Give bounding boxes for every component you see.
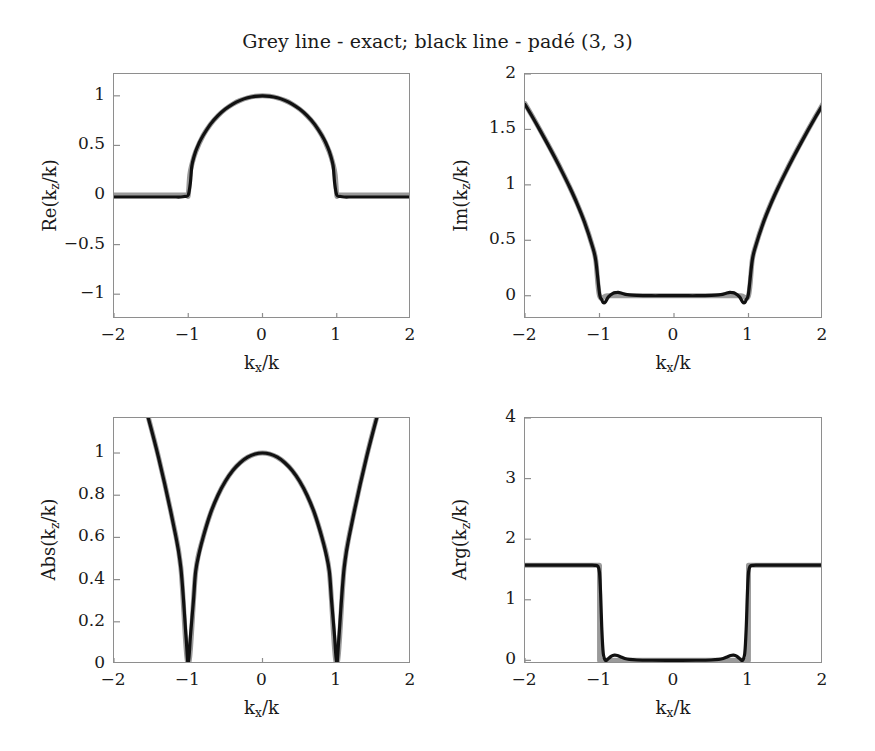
figure-canvas: Grey line - exact; black line - padé (3,… [0,0,875,751]
arg-panel-xtick-label: 1 [723,669,773,689]
arg-panel-xtick-label: −2 [499,669,549,689]
arg-panel-plot-area [525,418,822,663]
arg-panel-series-exact [525,565,822,660]
arg-panel-x-axis-label: kx/k [524,697,822,720]
arg-panel-tickmarks [525,418,822,663]
arg-panel-xtick-label: −1 [574,669,624,689]
arg-panel-xtick-label: 0 [648,669,698,689]
arg-panel-axes [524,417,822,663]
arg-panel-y-axis-label: Arg(kz/k) [449,417,472,663]
arg-panel: −2−101201234Arg(kz/k)kx/k [0,0,875,751]
arg-panel-series-pade [525,565,822,660]
arg-panel-xtick-label: 2 [797,669,847,689]
